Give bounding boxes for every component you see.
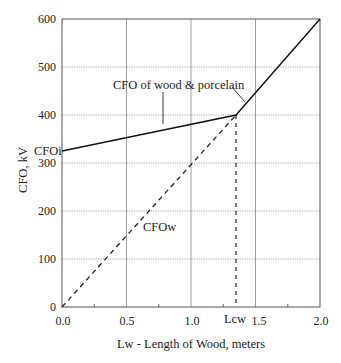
annot-cfoi: CFOi [34,144,62,158]
y-tick-200: 200 [38,204,56,218]
x-tick-0-5: 0.5 [120,314,135,328]
x-tick-1-5: 1.5 [252,314,267,328]
x-axis-title: Lw - Length of Wood, meters [117,337,265,351]
x-tick-0-0: 0.0 [56,314,71,328]
y-tick-100: 100 [38,252,56,266]
cfo-chart: 0 100 200 300 400 500 600 0.0 0.5 1.0 1.… [0,0,341,363]
y-tick-500: 500 [38,60,56,74]
cfow-line [62,115,236,307]
y-tick-0: 0 [50,300,56,314]
annot-lcw: Lcw [224,312,246,326]
x-tick-labels: 0.0 0.5 1.0 1.5 2.0 [56,314,329,328]
y-tick-labels: 0 100 200 300 400 500 600 [38,12,56,314]
y-tick-300: 300 [38,156,56,170]
x-tick-2-0: 2.0 [314,314,329,328]
annot-cfo-wood-porcelain: CFO of wood & porcelain [113,78,245,92]
x-tick-1-0: 1.0 [185,314,200,328]
annot-cfow: CFOw [143,220,176,234]
y-tick-400: 400 [38,108,56,122]
y-tick-600: 600 [38,12,56,26]
y-axis-title: CFO, kV [16,147,30,193]
